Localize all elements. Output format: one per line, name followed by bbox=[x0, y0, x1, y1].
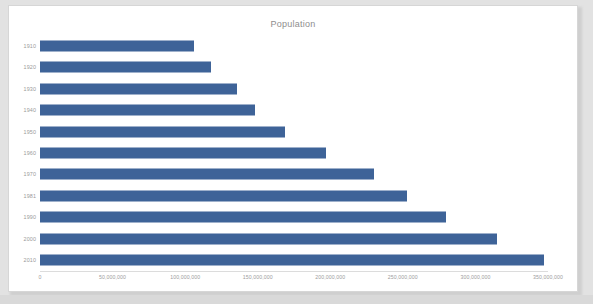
bar[interactable] bbox=[40, 40, 194, 51]
bar-row: 2000 bbox=[40, 228, 548, 249]
category-label: 1930 bbox=[24, 86, 36, 92]
bar[interactable] bbox=[40, 255, 544, 266]
bar[interactable] bbox=[40, 212, 446, 223]
bar[interactable] bbox=[40, 105, 255, 116]
bar-row: 1930 bbox=[40, 78, 548, 99]
bar-row: 1910 bbox=[40, 35, 548, 56]
bar-row: 1920 bbox=[40, 56, 548, 77]
category-label: 1981 bbox=[24, 193, 36, 199]
bar[interactable] bbox=[40, 126, 285, 137]
bar-row: 2010 bbox=[40, 250, 548, 271]
category-label: 1910 bbox=[24, 43, 36, 49]
bar[interactable] bbox=[40, 83, 237, 94]
x-axis-tick-labels: 050,000,000100,000,000150,000,000200,000… bbox=[40, 274, 548, 288]
bar-row: 1970 bbox=[40, 164, 548, 185]
bar[interactable] bbox=[40, 169, 374, 180]
bar-row: 1950 bbox=[40, 121, 548, 142]
x-tick-label: 300,000,000 bbox=[460, 274, 490, 280]
x-tick-label: 200,000,000 bbox=[315, 274, 345, 280]
chart-container[interactable]: Population 19101920193019401950196019701… bbox=[8, 5, 578, 292]
x-tick-label: 250,000,000 bbox=[388, 274, 418, 280]
x-tick-label: 100,000,000 bbox=[170, 274, 200, 280]
bar-row: 1940 bbox=[40, 99, 548, 120]
bar[interactable] bbox=[40, 190, 407, 201]
chart-title: Population bbox=[9, 19, 577, 29]
x-tick-label: 50,000,000 bbox=[99, 274, 126, 280]
category-label: 2000 bbox=[24, 236, 36, 242]
bar[interactable] bbox=[40, 147, 326, 158]
category-label: 1950 bbox=[24, 129, 36, 135]
category-label: 1920 bbox=[24, 64, 36, 70]
category-label: 2010 bbox=[24, 257, 36, 263]
x-tick-label: 0 bbox=[39, 274, 42, 280]
bar[interactable] bbox=[40, 62, 211, 73]
category-label: 1990 bbox=[24, 214, 36, 220]
bar-row: 1981 bbox=[40, 185, 548, 206]
chart-plot-area[interactable]: 1910192019301940195019601970198119902000… bbox=[40, 35, 548, 271]
category-label: 1940 bbox=[24, 107, 36, 113]
category-label: 1960 bbox=[24, 150, 36, 156]
x-axis-line bbox=[40, 271, 548, 272]
screenshot-root: Population 19101920193019401950196019701… bbox=[0, 0, 593, 304]
category-label: 1970 bbox=[24, 171, 36, 177]
x-tick-label: 350,000,000 bbox=[533, 274, 563, 280]
bottom-strip bbox=[0, 295, 593, 304]
bar-row: 1960 bbox=[40, 142, 548, 163]
bar[interactable] bbox=[40, 233, 497, 244]
bar-row: 1990 bbox=[40, 207, 548, 228]
x-tick-label: 150,000,000 bbox=[243, 274, 273, 280]
